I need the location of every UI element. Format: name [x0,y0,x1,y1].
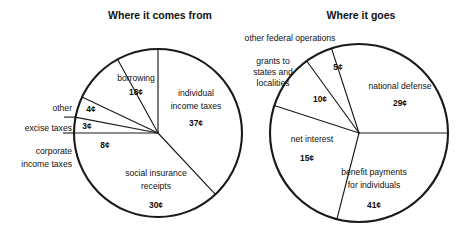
left-slice-value-individual-income-taxes: 37¢ [189,118,203,128]
right-pie-group: Where it goes national defense 29¢ benef… [245,9,448,222]
left-slice-label-corporate-line1: corporate [36,146,73,156]
left-slice-label-corporate-line2: income taxes [21,159,72,169]
right-slice-value-benefit: 41¢ [367,200,381,210]
figure-root: Where it comes from borrowing 18¢ indivi… [0,0,462,242]
right-slice-label-other-federal: other federal operations [245,33,336,43]
right-slice-value-net-interest: 15¢ [300,153,314,163]
left-slice-label-other: other [52,103,72,113]
right-slice-value-other-federal: 5¢ [333,62,343,72]
left-slice-label-social-insurance-line2: receipts [141,181,171,191]
left-slice-value-other: 4¢ [86,104,96,114]
left-slice-value-borrowing: 18¢ [129,87,143,97]
left-slice-label-excise: excise taxes [25,123,72,133]
left-slice-value-social-insurance: 30¢ [149,200,163,210]
left-pie-group: Where it comes from borrowing 18¢ indivi… [21,9,242,217]
right-slice-label-national-defense: national defense [368,81,431,91]
right-slice-label-grants-line1: grants to [256,56,290,66]
left-slice-label-social-insurance-line1: social insurance [125,168,187,178]
right-slice-label-grants-line3: localities [257,78,290,88]
left-slice-label-individual-income-taxes-line2: income taxes [171,101,222,111]
right-slice-label-benefit-line2: for individuals [348,180,401,190]
left-slice-label-individual-income-taxes-line1: individual [178,88,214,98]
left-chart-title: Where it comes from [108,9,212,21]
pie-charts-svg: Where it comes from borrowing 18¢ indivi… [0,0,462,242]
left-slice-value-corporate: 8¢ [100,140,110,150]
right-slice-label-grants-line2: states and [253,67,293,77]
left-slice-value-excise: 3¢ [82,121,92,131]
left-slice-label-borrowing: borrowing [117,73,155,83]
right-slice-value-grants: 10¢ [313,94,327,104]
right-slice-value-national-defense: 29¢ [393,98,407,108]
right-slice-label-net-interest: net interest [291,134,334,144]
right-chart-title: Where it goes [327,9,396,21]
right-slice-label-benefit-line1: benefit payments [341,167,406,177]
